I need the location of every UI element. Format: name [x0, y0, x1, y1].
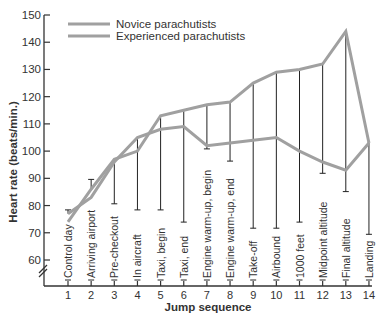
category-label: Engine warm-up, end	[224, 178, 236, 278]
category-label: Landing	[363, 240, 375, 278]
y-tick-label: 90	[28, 172, 41, 184]
x-tick-label: 6	[181, 289, 187, 301]
category-label: Engine warm-up, begin	[201, 170, 213, 278]
axis-break-icon	[39, 265, 47, 273]
category-label: 1000 feet	[294, 234, 306, 278]
category-label: Taxi, end	[178, 236, 190, 278]
novice-series-line	[68, 31, 369, 222]
x-tick-label: 3	[111, 289, 117, 301]
category-markers: Control dayArriving airportPre-checkoutI…	[62, 31, 375, 280]
category-label: Midpoint altitude	[317, 201, 329, 278]
axis-break-icon	[39, 269, 47, 277]
experienced-series-line	[68, 127, 369, 214]
y-tick-label: 100	[22, 145, 41, 157]
y-tick-label: 80	[28, 200, 41, 212]
x-tick-label: 2	[88, 289, 94, 301]
x-tick-label: 5	[158, 289, 164, 301]
x-tick-label: 12	[317, 289, 329, 301]
category-label: Airbound	[270, 236, 282, 278]
series-lines	[68, 31, 369, 222]
y-tick-label: 140	[22, 36, 41, 48]
category-label: Arriving airport	[85, 210, 97, 278]
x-tick-label: 1	[65, 289, 71, 301]
category-label: Pre-checkout	[108, 216, 120, 278]
y-tick-label: 70	[28, 227, 41, 239]
y-tick-label: 150	[22, 9, 41, 21]
x-tick-label: 13	[340, 289, 352, 301]
category-label: In aircraft	[131, 234, 143, 278]
y-tick-label: 120	[22, 91, 41, 103]
category-label: Control day	[62, 224, 74, 278]
line-chart: 60708090100110120130140150 1234567891011…	[0, 0, 381, 320]
y-tick-label: 60	[28, 254, 41, 266]
legend-label: Novice parachutists	[116, 18, 217, 30]
legend-label: Experienced parachutists	[116, 30, 245, 42]
category-label: Taxi, begin	[155, 228, 167, 278]
y-axis: 60708090100110120130140150	[22, 9, 50, 286]
category-label: Take-off	[247, 241, 259, 278]
category-label: Final altitude	[340, 218, 352, 278]
x-tick-label: 8	[227, 289, 233, 301]
x-tick-label: 7	[204, 289, 210, 301]
x-axis-label: Jump sequence	[165, 301, 252, 313]
y-tick-label: 110	[23, 118, 41, 130]
legend: Novice parachutistsExperienced parachuti…	[68, 18, 245, 42]
x-tick-label: 10	[270, 289, 282, 301]
x-tick-label: 4	[134, 289, 140, 301]
y-tick-label: 130	[22, 63, 41, 75]
x-axis: 1234567891011121314	[44, 281, 375, 301]
x-tick-label: 14	[363, 289, 375, 301]
x-tick-label: 9	[250, 289, 256, 301]
y-axis-label: Heart rate (beats/min.)	[7, 101, 19, 223]
x-tick-label: 11	[294, 289, 305, 301]
